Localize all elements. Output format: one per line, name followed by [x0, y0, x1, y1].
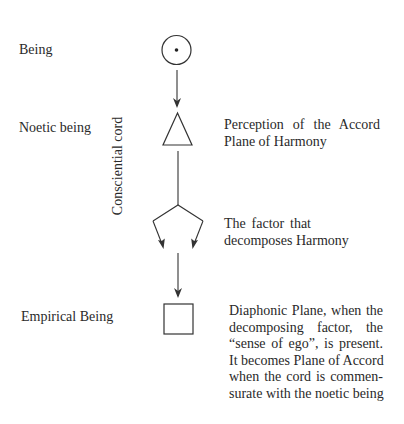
description-line: Perception of the Accord: [224, 117, 380, 134]
description-noetic: Perception of the Accord Plane of Harmon…: [224, 117, 380, 150]
consciential-cord-diagram: Being Noetic being Empirical Being Consc…: [0, 0, 404, 424]
description-line: It becomes Plane of Accord: [229, 353, 383, 370]
square-icon: [164, 304, 193, 334]
triangle-icon: [163, 113, 192, 145]
description-line: decomposing factor, the: [229, 320, 383, 337]
description-line: decomposes Harmony: [224, 233, 354, 250]
description-line: Plane of Harmony: [224, 134, 380, 151]
description-empirical: Diaphonic Plane, when the decomposing fa…: [229, 303, 383, 402]
description-decomposing-factor: The factor that decomposes Harmony: [224, 216, 354, 249]
description-line: Diaphonic Plane, when the: [229, 303, 383, 320]
fork-arrows-icon: [153, 205, 203, 249]
description-line: surate with the noetic being: [229, 386, 383, 403]
description-line: when the cord is commen-: [229, 369, 383, 386]
description-line: “sense of ego”, is present.: [229, 336, 383, 353]
arrow-down-icon: [173, 70, 181, 108]
description-line: The factor that: [224, 216, 311, 233]
arrow-down-icon: [174, 253, 182, 298]
circle-with-dot-icon: [162, 36, 191, 65]
